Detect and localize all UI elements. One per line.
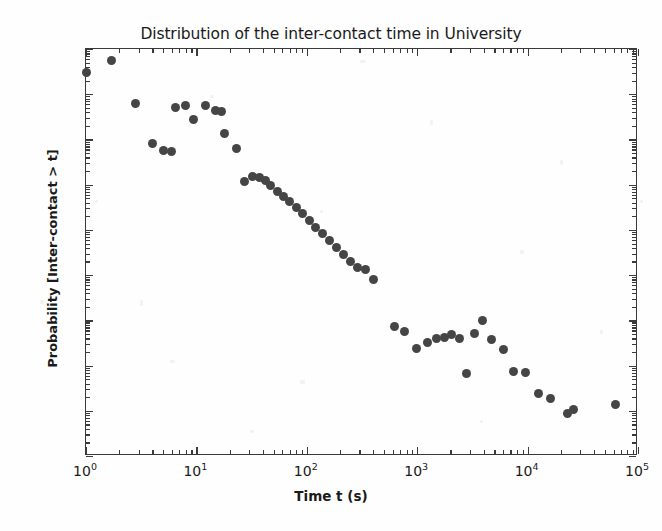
y-tick: [86, 104, 90, 105]
y-tick: [86, 198, 90, 199]
data-point: [423, 338, 432, 347]
scan-speckle: [300, 380, 305, 384]
y-tick: [86, 51, 90, 52]
data-point: [159, 146, 168, 155]
y-tick: [86, 370, 90, 371]
data-point: [611, 400, 620, 409]
y-tick: [86, 63, 90, 64]
x-tick-exponent: 5: [643, 461, 649, 472]
x-tick-top: [340, 49, 341, 53]
x-tick: [638, 447, 639, 454]
y-tick: [86, 187, 90, 188]
scan-speckle: [360, 60, 366, 63]
y-tick: [86, 56, 90, 57]
x-tick-top: [400, 49, 401, 53]
y-tick-right: [632, 442, 636, 443]
y-tick-right: [632, 208, 636, 209]
x-tick-top: [523, 49, 524, 53]
y-tick: [86, 144, 90, 145]
y-tick-right: [632, 421, 636, 422]
y-tick: [86, 81, 90, 82]
y-tick: [86, 49, 93, 50]
y-tick: [86, 275, 93, 276]
y-tick-right: [632, 63, 636, 64]
scan-speckle: [250, 430, 254, 433]
y-tick-right: [632, 171, 636, 172]
x-tick: [393, 450, 394, 454]
y-tick: [86, 373, 90, 374]
x-tick: [528, 447, 529, 454]
data-point: [390, 322, 399, 331]
y-tick-right: [632, 277, 636, 278]
data-point: [487, 335, 496, 344]
x-tick: [621, 450, 622, 454]
y-tick: [86, 192, 90, 193]
y-tick-right: [632, 429, 636, 430]
x-tick: [152, 450, 153, 454]
y-tick-right: [632, 99, 636, 100]
y-tick-right: [632, 126, 636, 127]
y-tick: [86, 285, 90, 286]
y-tick: [86, 434, 90, 435]
y-tick-right: [629, 366, 636, 367]
x-tick-top: [393, 49, 394, 53]
y-tick-right: [632, 299, 636, 300]
x-tick-top: [186, 49, 187, 53]
y-tick: [86, 325, 90, 326]
y-tick: [86, 234, 90, 235]
y-tick-right: [632, 379, 636, 380]
y-tick: [86, 415, 90, 416]
y-tick: [86, 397, 90, 398]
scan-speckle: [640, 200, 643, 203]
y-tick: [86, 153, 90, 154]
y-tick-right: [632, 415, 636, 416]
x-tick: [503, 450, 504, 454]
x-tick-top: [263, 49, 264, 53]
y-tick-right: [632, 67, 636, 68]
y-tick-right: [632, 232, 636, 233]
y-tick: [86, 146, 90, 147]
data-point: [455, 334, 464, 343]
x-tick: [302, 450, 303, 454]
x-tick-mantissa: 10: [625, 463, 643, 479]
x-tick-label: 104: [515, 461, 539, 479]
x-tick: [290, 450, 291, 454]
x-tick-top: [373, 49, 374, 53]
x-tick: [249, 450, 250, 454]
y-tick: [86, 376, 90, 377]
x-tick: [407, 450, 408, 454]
scan-speckle: [560, 160, 563, 165]
y-tick-right: [629, 185, 636, 186]
x-tick-top: [503, 49, 504, 53]
data-point: [369, 275, 378, 284]
y-tick-right: [632, 293, 636, 294]
y-tick: [86, 240, 90, 241]
data-point: [462, 369, 471, 378]
data-point: [201, 101, 210, 110]
x-tick-top: [605, 49, 606, 53]
data-point: [521, 368, 530, 377]
x-tick: [605, 450, 606, 454]
x-tick-top: [470, 49, 471, 53]
y-tick: [86, 352, 90, 353]
x-tick-top: [638, 49, 639, 56]
x-tick-top: [119, 49, 120, 53]
x-tick: [139, 450, 140, 454]
x-tick-top: [290, 49, 291, 53]
x-tick-top: [163, 49, 164, 53]
x-tick-mantissa: 10: [73, 463, 91, 479]
x-tick-top: [152, 49, 153, 53]
x-tick-top: [412, 49, 413, 53]
plot-area: [85, 48, 637, 455]
y-tick-right: [632, 153, 636, 154]
x-tick: [384, 450, 385, 454]
y-tick: [86, 279, 90, 280]
y-tick: [86, 456, 93, 457]
x-tick-mantissa: 10: [515, 463, 533, 479]
x-tick: [263, 450, 264, 454]
y-tick: [86, 163, 90, 164]
x-tick-top: [484, 49, 485, 53]
y-tick: [86, 413, 90, 414]
y-tick: [86, 237, 90, 238]
y-tick-right: [632, 146, 636, 147]
